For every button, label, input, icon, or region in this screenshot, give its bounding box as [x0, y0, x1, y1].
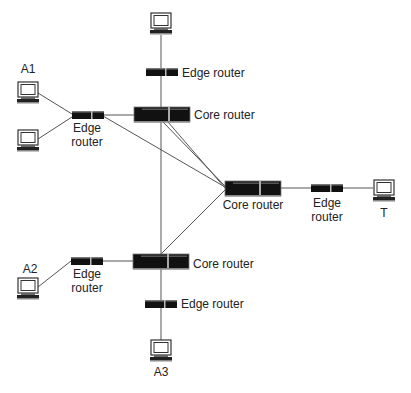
computer-icon-a3 [150, 340, 172, 362]
edge-router-bottom-label: Edge router [181, 297, 244, 311]
edge-router-left-bottom-label-2: router [71, 281, 102, 295]
edge-router-left-bottom-label-1: Edge [73, 267, 101, 281]
computer-icon-t [373, 180, 395, 202]
computer-icon-a1 [17, 82, 39, 104]
link-a2-edge-left-bottom [38, 261, 71, 287]
edge-router-icon-left-top [72, 111, 104, 119]
computer-icon-top [150, 13, 172, 35]
core-router-icon-right [225, 181, 281, 197]
edge-router-top-label: Edge router [182, 66, 245, 80]
a1-label: A1 [21, 62, 36, 76]
link-edge-left-core-right [103, 116, 225, 187]
computer-icon-left2 [17, 130, 39, 152]
network-diagram: Edge router Core router A1 Edge router C… [0, 0, 411, 393]
edge-router-icon-top [146, 68, 178, 76]
link-a1-edge-left [38, 93, 72, 114]
computer-icon-a2 [17, 278, 39, 300]
core-router-right-label: Core router [223, 198, 284, 212]
edge-router-icon-left-bottom [71, 257, 103, 265]
edge-router-right-label-1: Edge [313, 196, 341, 210]
edge-router-left-top-label-1: Edge [73, 121, 101, 135]
link-core-top-core-right-a [163, 122, 225, 186]
edge-router-icon-bottom [145, 300, 177, 308]
diagram-canvas [0, 0, 411, 393]
core-router-icon-top [134, 107, 190, 123]
edge-router-right-label-2: router [311, 210, 342, 224]
core-router-top-label: Core router [194, 108, 255, 122]
core-router-bottom-label: Core router [193, 257, 254, 271]
core-router-icon-bottom [133, 254, 189, 270]
t-label: T [380, 206, 387, 220]
a2-label: A2 [23, 262, 38, 276]
link-core-top-core-right-b [168, 122, 225, 188]
a3-label: A3 [154, 365, 169, 379]
edge-router-left-top-label-2: router [71, 135, 102, 149]
link-core-bottom-core-right [161, 190, 225, 254]
edge-router-icon-right [311, 184, 343, 192]
link-pc2-edge-left [38, 117, 72, 139]
